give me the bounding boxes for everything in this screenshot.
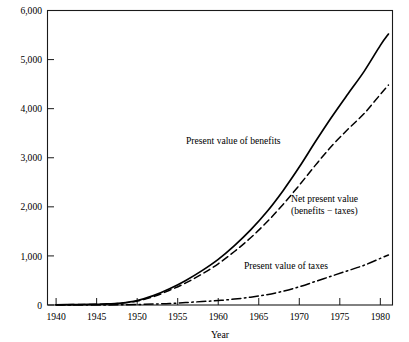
x-tick-label-1945: 1945 xyxy=(87,311,106,322)
x-tick-label-1950: 1950 xyxy=(128,311,147,322)
annotation-net-present-value-line1: Net present value xyxy=(291,193,358,204)
y-tick-label-0: 0 xyxy=(37,300,42,311)
annotation-present-value-of-taxes: Present value of taxes xyxy=(244,260,328,271)
line-chart: 01,0002,0003,0004,0005,0006,000 19401945… xyxy=(0,0,409,342)
x-tick-label-1980: 1980 xyxy=(371,311,390,322)
chart-background xyxy=(0,0,409,342)
y-tick-label-5000: 5,000 xyxy=(20,54,42,65)
x-tick-label-1960: 1960 xyxy=(209,311,228,322)
y-tick-label-4000: 4,000 xyxy=(20,103,42,114)
x-axis-title: Year xyxy=(211,329,230,340)
y-tick-label-2000: 2,000 xyxy=(20,201,42,212)
x-tick-label-1965: 1965 xyxy=(249,311,268,322)
x-tick-label-1955: 1955 xyxy=(168,311,187,322)
chart-figure: (in 1982 dollars) 01,0002,0003,0004,0005… xyxy=(0,0,409,342)
annotation-present-value-of-benefits: Present value of benefits xyxy=(186,135,281,146)
x-tick-label-1940: 1940 xyxy=(47,311,66,322)
annotation-net-present-value-line2: (benefits − taxes) xyxy=(291,205,358,217)
x-tick-label-1975: 1975 xyxy=(330,311,349,322)
y-tick-label-3000: 3,000 xyxy=(20,152,42,163)
x-tick-label-1970: 1970 xyxy=(290,311,309,322)
y-tick-label-1000: 1,000 xyxy=(20,251,42,262)
y-tick-label-6000: 6,000 xyxy=(20,5,42,16)
